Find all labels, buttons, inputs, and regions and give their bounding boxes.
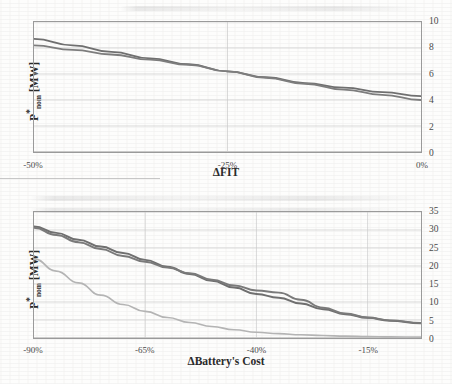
series-series-1 xyxy=(34,226,421,323)
y-tick-label: 0 xyxy=(429,334,434,344)
x-tick-label: 0% xyxy=(416,160,428,170)
y-tick-label: 8 xyxy=(429,42,434,52)
series-series-2 xyxy=(34,228,421,323)
x-tick-label: -90% xyxy=(23,345,43,355)
y-tick-label: 20 xyxy=(429,261,439,271)
plot-area-top xyxy=(33,21,422,153)
y-tick-label: 30 xyxy=(429,224,439,234)
y-tick-label: 35 xyxy=(429,206,439,216)
chart-delta-battery-cost: P*nom [MW] 05101520253035-90%-65%-40%-15… xyxy=(0,192,452,384)
y-tick-label: 4 xyxy=(429,95,434,105)
y-tick-label: 2 xyxy=(429,122,434,132)
x-axis-title: ΔFIT xyxy=(213,166,239,178)
x-tick-label: -15% xyxy=(359,345,379,355)
x-tick-label: -40% xyxy=(247,345,267,355)
plot-svg-top xyxy=(34,22,421,152)
x-tick-label: -50% xyxy=(23,160,43,170)
y-tick-label: 10 xyxy=(429,297,439,307)
x-tick-label: -65% xyxy=(135,345,155,355)
series-series-3 xyxy=(34,259,421,337)
y-tick-label: 25 xyxy=(429,243,439,253)
y-tick-label: 0 xyxy=(429,148,434,158)
y-tick-label: 6 xyxy=(429,69,434,79)
plot-svg-bottom xyxy=(34,212,421,338)
y-tick-label: 5 xyxy=(429,316,434,326)
chart-delta-fit: P*nom [MW] 0246810-50%-25%0%ΔFIT xyxy=(0,0,452,192)
y-tick-label: 10 xyxy=(429,16,439,26)
plot-area-bottom xyxy=(33,211,422,339)
y-tick-label: 15 xyxy=(429,279,439,289)
x-axis-title: ΔBattery's Cost xyxy=(187,355,264,367)
